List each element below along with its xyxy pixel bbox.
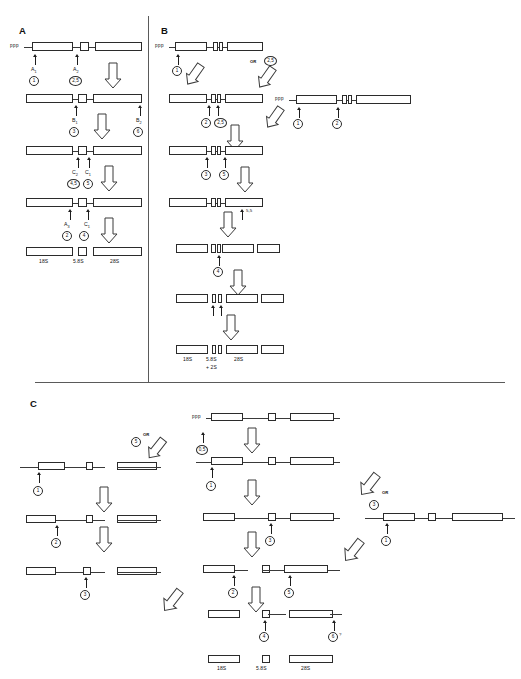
panel-c-product-18s-box: [208, 655, 240, 663]
panel-b-alt-cut-2: [336, 107, 341, 118]
panel-b-alt-2s-box: [348, 95, 352, 104]
panel-b-product-58s-box: [212, 345, 216, 354]
panel-b-row4-28s-box: [225, 198, 263, 207]
panel-c-right-enzyme-1: 1: [381, 536, 391, 546]
panel-b-alt-58s-box: [342, 95, 347, 104]
panel-b-row3-58s-box: [211, 146, 216, 155]
panel-b-product-ext-box: [261, 345, 284, 354]
panel-a-product-18s-label: 18S: [39, 259, 48, 265]
panel-a-enzyme-3: 3: [69, 127, 79, 137]
panel-c-left-enzyme-2: 2: [51, 538, 61, 548]
panel-c-step-arrow-left-1: [95, 487, 113, 513]
panel-c-step-arrow-mid-3: [243, 532, 261, 558]
panel-b-alt-enzyme-2: 2: [332, 119, 342, 129]
panel-b-cut-5: [223, 157, 228, 168]
panel-b-row5-2s-box: [217, 244, 221, 253]
panel-b-product-18s-box: [176, 345, 208, 354]
panel-b-enzyme-2: 2: [201, 118, 211, 128]
panel-c-left-row1-28s-box: [117, 462, 157, 470]
panel-a-row4-58s-box: [78, 198, 87, 207]
panel-b-step-arrow-alt-2: [261, 104, 288, 133]
panel-a-cut-c1-label: C1: [85, 170, 91, 177]
panel-b-row1-2s-box: [219, 42, 223, 51]
panel-c-right-cut-1: [385, 523, 390, 534]
panel-letter-b: B: [161, 26, 168, 36]
panel-b-alt-ppp-label: ppp: [275, 96, 284, 101]
panel-a-cut-b2-label: B2: [136, 118, 142, 125]
panel-c-mid-row4-28s-box: [284, 565, 328, 573]
panel-c-enzyme-6-question: ?: [339, 632, 342, 637]
panel-b-row3-2s-box: [217, 146, 221, 155]
panel-c-mid-enzyme-4: 4: [259, 632, 269, 642]
panel-b-or-label: OR: [250, 60, 256, 65]
panel-c-mid-row4-18s-box: [203, 565, 235, 573]
panel-b-row6-2s-box: [218, 294, 222, 303]
panel-b-row2-18s-box: [169, 94, 207, 103]
panel-c-mid-enzyme-6: 6: [328, 632, 338, 642]
panel-b-step-arrow-1: [181, 61, 208, 90]
panel-b-row6-ext-box: [261, 294, 284, 303]
panel-a-cut-c2-label: C2: [72, 170, 78, 177]
panel-b-enzyme-3: 3: [201, 170, 211, 180]
panel-c-right-18s-box: [383, 513, 415, 521]
panel-c-mid-enzyme-1: 1: [206, 481, 216, 491]
panel-b-row5-ext-box: [257, 244, 280, 253]
panel-b-cut-55: [240, 209, 245, 220]
panel-b-row4-58s-box: [211, 198, 216, 207]
panel-b-row4-2s-box: [217, 198, 221, 207]
panel-c-left-enzyme-1: 1: [33, 486, 43, 496]
panel-b-alt-28s-box: [356, 95, 411, 104]
panel-a-step-arrow-1: [104, 63, 122, 89]
panel-c-mid-cut-6: [332, 620, 337, 631]
panel-b-row1-18s-box: [175, 42, 207, 51]
panel-c-left-cut-1: [37, 472, 42, 483]
panel-b-enzyme-5: 5: [219, 170, 229, 180]
panel-a-row4-28s-box: [93, 198, 142, 207]
panel-c-mid-row3-18s-box: [203, 513, 235, 521]
panel-b-row6-58s-box: [212, 294, 216, 303]
panel-c-step-arrow-left-2: [95, 527, 113, 553]
panel-c-row1-28s-box: [290, 413, 334, 421]
panel-a-cut-a2-label: A2: [73, 67, 79, 74]
panel-b-row2-28s-box: [225, 94, 263, 103]
panel-c-ppp-label: ppp: [192, 414, 201, 419]
panel-b-enzyme-1: 1: [172, 66, 182, 76]
panel-a-cut-a3-label: A3: [64, 222, 70, 229]
panel-c-product-28s-label: 28S: [301, 666, 310, 672]
panel-b-step-arrow-3: [236, 167, 254, 193]
panel-c-mid-enzyme-5: 5: [284, 588, 294, 598]
panel-c-left-enzyme-3: 3: [80, 590, 90, 600]
panel-a-enzyme-2: 2: [62, 231, 72, 241]
panel-c-mid-row5-line: [268, 614, 286, 615]
panel-a-row1-58s-box: [80, 42, 89, 51]
panel-c-mid-row5-line2: [330, 614, 342, 615]
panel-c-left-row3-28s-box: [117, 567, 157, 575]
panel-c-mid-cut-4: [263, 620, 268, 631]
panel-c-or-label-left: OR: [143, 433, 149, 438]
panel-c-step-arrow-left-0: [142, 435, 169, 464]
panel-a-row1-28s-box: [95, 42, 142, 51]
panel-c-left-row3-18s-box: [26, 567, 56, 575]
panel-c-left-row1-line2: [117, 467, 161, 468]
panel-letter-a: A: [19, 26, 26, 36]
panel-c-product-58s-label: 5.8S: [256, 666, 267, 672]
panel-a-enzyme-5: 5: [83, 179, 93, 189]
panel-c-cut-05: [201, 432, 206, 443]
panel-b-product-28s-label: 28S: [234, 357, 243, 363]
panel-a-row1-18s-box: [32, 42, 73, 51]
panel-c-left-row2-28s-box: [117, 515, 157, 523]
panel-c-step-arrow-mid-2: [243, 480, 261, 506]
panel-c-mid-row2-18s-box: [211, 457, 243, 465]
panel-b-cut-2: [207, 105, 212, 116]
figure-canvas: A ppp A1 1 A2 2,5 B1 3 B2 6 C2 C1: [0, 0, 521, 679]
panel-c-product-18s-label: 18S: [217, 666, 226, 672]
panel-b-cut-3: [205, 157, 210, 168]
panel-a-product-58s-box: [78, 247, 87, 256]
panel-c-mid-cut-5: [288, 575, 293, 586]
panel-a-cut-b1-label: B1: [72, 118, 78, 125]
panel-a-product-18s-box: [26, 247, 73, 256]
panel-c-mid-row5-18s-box: [208, 610, 240, 618]
panel-b-row3-28s-box: [225, 146, 263, 155]
panel-a-row4-18s-box: [26, 198, 73, 207]
panel-a-product-58s-label: 5.8S: [73, 259, 84, 265]
